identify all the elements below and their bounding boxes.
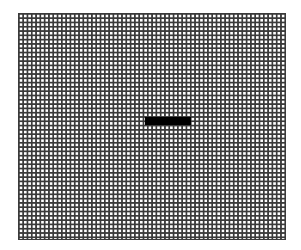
black-bar-marker <box>145 117 191 125</box>
grid-canvas <box>18 13 286 240</box>
